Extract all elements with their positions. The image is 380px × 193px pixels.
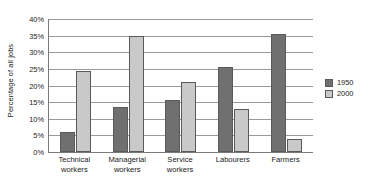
- bar-group: [102, 19, 155, 152]
- x-axis-category-label: Technicalworkers: [48, 155, 101, 174]
- x-axis-category-label: Farmers: [259, 155, 312, 174]
- legend-swatch-icon: [325, 90, 333, 98]
- x-axis-category-label-line2: workers: [101, 165, 154, 175]
- y-axis-tick-label: 30%: [29, 48, 44, 57]
- y-axis-tick-label: 20%: [29, 81, 44, 90]
- bar-group: [207, 19, 260, 152]
- bar-2000[interactable]: [129, 36, 144, 152]
- y-axis-tick-label: 35%: [29, 31, 44, 40]
- y-axis-tick-label: 25%: [29, 64, 44, 73]
- x-axis-category-label: Serviceworkers: [154, 155, 207, 174]
- bar-1950[interactable]: [271, 34, 286, 152]
- x-axis-category-label-line1: Farmers: [271, 155, 299, 164]
- y-axis-tick-labels: 0%5%10%15%20%25%30%35%40%: [16, 19, 46, 152]
- y-axis-tick-label: 5%: [33, 131, 44, 140]
- y-axis-title-text: Percentage of all jobs: [7, 43, 16, 116]
- x-axis-category-label: Labourers: [206, 155, 259, 174]
- bar-chart: Percentage of all jobs 0%5%10%15%20%25%3…: [0, 0, 380, 193]
- x-axis-category-labels: TechnicalworkersManagerialworkersService…: [48, 155, 312, 174]
- bar-2000[interactable]: [181, 82, 196, 152]
- bar-groups: [49, 19, 313, 152]
- plot-area: [48, 19, 313, 153]
- bar-1950[interactable]: [60, 132, 75, 152]
- legend-swatch-icon: [325, 79, 333, 87]
- x-axis-category-label-line2: workers: [48, 165, 101, 175]
- legend: 19502000: [325, 77, 353, 99]
- x-axis-category-label-line1: Service: [167, 155, 192, 164]
- legend-item-1950[interactable]: 1950: [325, 77, 353, 88]
- legend-label: 2000: [337, 89, 353, 98]
- legend-label: 1950: [337, 78, 353, 87]
- bar-1950[interactable]: [113, 107, 128, 152]
- x-axis-category-label-line2: workers: [154, 165, 207, 175]
- y-axis-tick-label: 10%: [29, 114, 44, 123]
- bar-2000[interactable]: [76, 71, 91, 152]
- x-axis-category-label-line1: Managerial: [108, 155, 146, 164]
- bar-1950[interactable]: [218, 67, 233, 152]
- legend-item-2000[interactable]: 2000: [325, 88, 353, 99]
- y-axis-tick-label: 15%: [29, 98, 44, 107]
- x-axis-category-label: Managerialworkers: [101, 155, 154, 174]
- x-axis-category-label-line1: Technical: [59, 155, 91, 164]
- y-axis-tick-label: 0%: [33, 148, 44, 157]
- bar-2000[interactable]: [234, 109, 249, 152]
- y-axis-tick-label: 40%: [29, 15, 44, 24]
- bar-group: [155, 19, 208, 152]
- bar-1950[interactable]: [165, 100, 180, 152]
- bar-group: [49, 19, 102, 152]
- x-axis-category-label-line1: Labourers: [216, 155, 250, 164]
- bar-group: [260, 19, 313, 152]
- bar-2000[interactable]: [287, 139, 302, 152]
